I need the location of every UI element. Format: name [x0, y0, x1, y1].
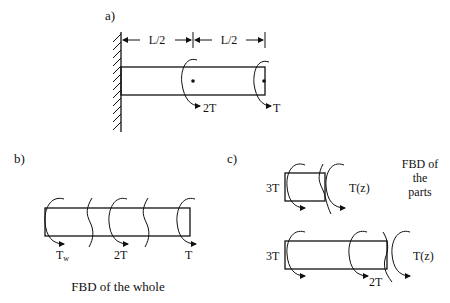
torque-label-tz: T(z) — [413, 249, 434, 263]
panel-c-label: c) — [227, 151, 237, 166]
shaft-segment-lower — [285, 241, 387, 269]
panel-a-label: a) — [105, 8, 115, 23]
caption-whole: FBD of the whole — [71, 279, 165, 294]
torque-arrow-t — [254, 61, 271, 106]
torque-arrow-2t — [109, 198, 128, 244]
fixed-wall — [113, 32, 121, 132]
section-cut — [143, 198, 149, 247]
torque-label-2t: 2T — [369, 275, 383, 289]
panel-c: c) 3T T(z) FBD of the parts 3T 2T T(z) — [227, 151, 438, 289]
caption-line-3: parts — [408, 185, 432, 199]
torque-arrow-tz — [326, 164, 345, 208]
torque-arrow-tz — [392, 231, 410, 276]
caption-line-1: FBD of — [402, 157, 438, 171]
panel-b: b) Tw 2T T FBD of the whole — [14, 151, 196, 294]
load-point-end — [262, 79, 266, 83]
torsion-shaft-diagram: a) — [0, 0, 450, 303]
torque-label-2t: 2T — [203, 101, 217, 115]
lower-part: 3T 2T T(z) — [266, 231, 434, 289]
section-cut — [87, 198, 93, 247]
dim-label-1: L/2 — [149, 33, 166, 47]
torque-label-t: T — [273, 101, 281, 115]
shaft-whole — [45, 208, 190, 236]
torque-label-t: T — [185, 248, 193, 262]
torque-label-2t: 2T — [114, 248, 128, 262]
dim-label-2: L/2 — [221, 33, 238, 47]
dimension-line: L/2 L/2 — [123, 32, 265, 48]
caption-parts: FBD of the parts — [402, 157, 438, 199]
load-point-mid — [191, 79, 195, 83]
panel-b-label: b) — [14, 151, 25, 166]
torque-arrow-t — [177, 198, 196, 244]
torque-label-tw: Tw — [56, 248, 69, 263]
torque-arrow-tw — [45, 198, 64, 244]
panel-a: a) — [105, 8, 281, 132]
upper-part: 3T T(z) — [266, 164, 370, 214]
caption-line-2: the — [413, 171, 428, 185]
torque-label-3t: 3T — [266, 249, 280, 263]
torque-label-tz: T(z) — [349, 181, 370, 195]
torque-label-3t: 3T — [266, 181, 280, 195]
